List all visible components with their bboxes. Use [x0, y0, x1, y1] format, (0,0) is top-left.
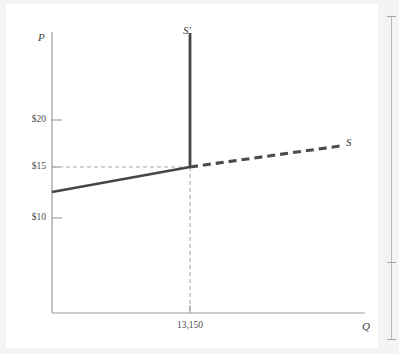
- page-rule-cap-mid: [387, 262, 396, 263]
- y-axis-label: P: [38, 32, 45, 43]
- page-rule-cap-top: [387, 16, 396, 17]
- curve-label-s-prime: S′: [183, 25, 191, 36]
- curve-label-s: S: [346, 137, 352, 148]
- supply-curve-s-prime-sloped: [52, 167, 190, 192]
- page-rule-cap-bottom: [387, 339, 396, 340]
- x-tick-label-13150: 13,150: [160, 321, 220, 331]
- y-tick-label-15: $15: [14, 162, 46, 172]
- supply-curve-s-dashed: [190, 146, 340, 167]
- x-axis-label: Q: [362, 321, 370, 332]
- supply-curve-chart: [0, 0, 399, 354]
- page-margin-rule: [391, 16, 392, 340]
- figure-container: P Q $20 $15 $10 13,150 S′ S: [0, 0, 399, 354]
- y-tick-label-20: $20: [14, 115, 46, 125]
- y-tick-label-10: $10: [14, 213, 46, 223]
